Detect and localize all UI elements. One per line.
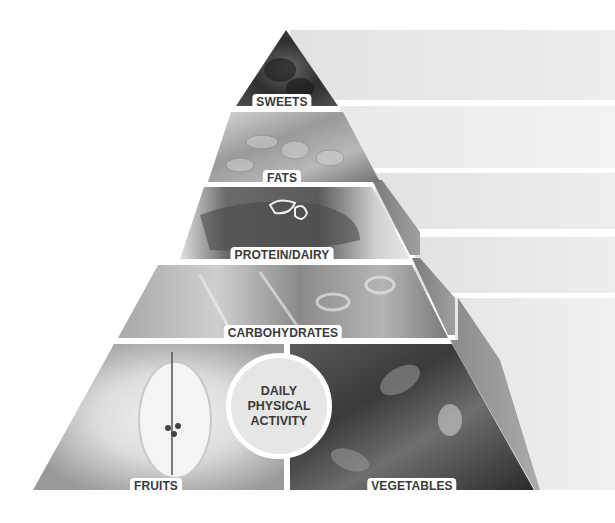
badge-line-2: PHYSICAL [247, 399, 310, 414]
label-vegetables: VEGETABLES [367, 478, 456, 494]
shelf-fats [340, 106, 615, 168]
label-fruits: FRUITS [130, 478, 182, 494]
shelf-carbs [415, 237, 615, 293]
shelf-sweets [290, 30, 615, 100]
label-fats: FATS [263, 170, 301, 186]
label-carbohydrates: CARBOHYDRATES [224, 325, 342, 341]
badge-line-1: DAILY [261, 384, 297, 399]
food-pyramid-diagram: SWEETS FATS PROTEIN/DAIRY CARBOHYDRATES … [0, 0, 615, 523]
daily-physical-activity-badge: DAILY PHYSICAL ACTIVITY [226, 353, 332, 459]
badge-line-3: ACTIVITY [251, 414, 308, 429]
label-sweets: SWEETS [252, 94, 311, 110]
label-protein-dairy: PROTEIN/DAIRY [231, 247, 334, 263]
